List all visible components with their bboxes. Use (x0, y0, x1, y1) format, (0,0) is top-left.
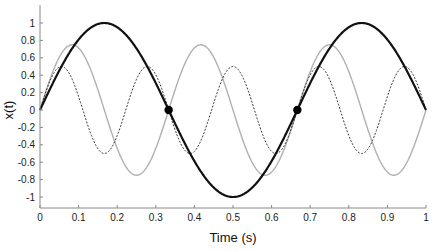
chart: 00.10.20.30.40.50.60.70.80.91-1-0.8-0.6-… (0, 0, 438, 251)
y-tick-label: 0.8 (21, 35, 35, 46)
plot-area (40, 23, 426, 197)
x-tick-label: 0.4 (187, 212, 201, 223)
x-tick-label: 0.7 (303, 212, 317, 223)
y-tick-label: 0.6 (21, 52, 35, 63)
y-tick-label: -0.2 (18, 122, 36, 133)
x-tick-label: 0.1 (72, 212, 86, 223)
y-tick-label: 0 (29, 105, 35, 116)
series-line-1 (40, 45, 426, 176)
x-tick-label: 0.2 (110, 212, 124, 223)
y-axis-label: x(t) (1, 101, 16, 120)
x-tick-label: 0.6 (265, 212, 279, 223)
y-tick-label: 0.4 (21, 70, 35, 81)
y-tick-label: -0.8 (18, 174, 36, 185)
y-tick-label: -0.4 (18, 139, 36, 150)
y-tick-label: 1 (29, 18, 35, 29)
marker-dot (164, 106, 172, 114)
marker-dot (293, 106, 301, 114)
y-tick-label: -1 (26, 192, 35, 203)
x-axis-label: Time (s) (209, 230, 256, 245)
x-tick-label: 0.5 (226, 212, 240, 223)
x-tick-label: 0.8 (342, 212, 356, 223)
x-tick-label: 1 (423, 212, 429, 223)
x-tick-label: 0 (37, 212, 43, 223)
x-tick-label: 0.9 (380, 212, 394, 223)
x-tick-label: 0.3 (149, 212, 163, 223)
y-tick-label: 0.2 (21, 87, 35, 98)
y-tick-label: -0.6 (18, 157, 36, 168)
